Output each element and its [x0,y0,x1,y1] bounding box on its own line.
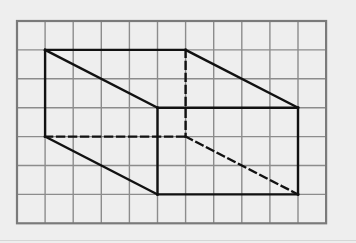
page-bottom-edge [0,240,356,241]
visible-edges [45,50,298,195]
cuboid-grid-drawing [0,0,356,243]
diagram-canvas [0,0,356,243]
hidden-edges-dashed [45,50,298,195]
square-grid [17,21,326,223]
grid-border [17,21,326,223]
